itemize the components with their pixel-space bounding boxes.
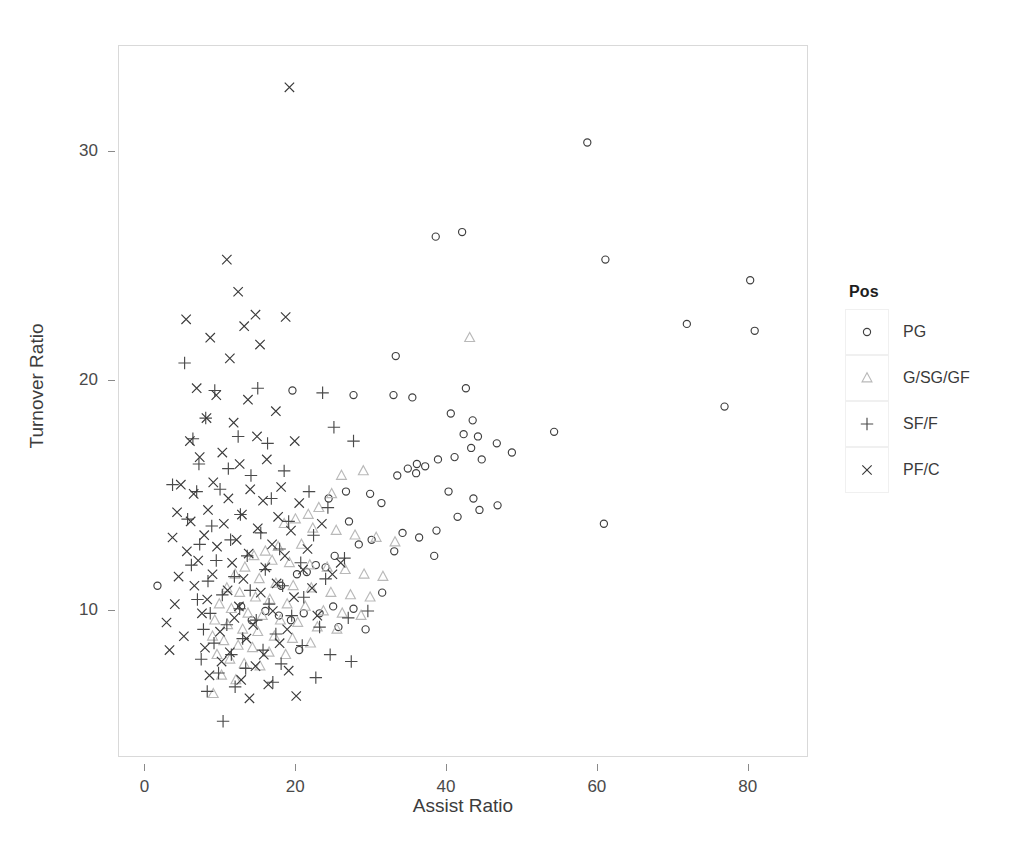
legend-label: PG (903, 323, 926, 341)
x-tick-mark (144, 764, 145, 771)
legend-item-PF-C[interactable]: PF/C (845, 447, 1015, 493)
x-tick-mark (446, 764, 447, 771)
legend: Pos PGG/SG/GFSF/FPF/C (845, 283, 1015, 493)
y-tick-label: 10 (56, 600, 98, 620)
y-tick-mark (108, 380, 115, 381)
legend-label: G/SG/GF (903, 369, 970, 387)
legend-item-G-SG-GF[interactable]: G/SG/GF (845, 355, 1015, 401)
legend-title: Pos (849, 283, 1015, 301)
x-tick-label: 0 (140, 777, 149, 797)
y-tick-label: 30 (56, 141, 98, 161)
legend-item-SF-F[interactable]: SF/F (845, 401, 1015, 447)
circle-marker-icon (845, 309, 889, 355)
x-tick-label: 40 (437, 777, 456, 797)
triangle-marker-icon (845, 355, 889, 401)
x-axis-title: Assist Ratio (0, 795, 926, 817)
y-tick-mark (108, 610, 115, 611)
data-points-layer (119, 46, 808, 757)
plus-marker-icon (845, 401, 889, 447)
x-tick-mark (748, 764, 749, 771)
cross-marker-icon (845, 447, 889, 493)
x-tick-mark (597, 764, 598, 771)
plot-area (118, 45, 808, 757)
x-tick-label: 80 (738, 777, 757, 797)
legend-label: SF/F (903, 415, 938, 433)
legend-items: PGG/SG/GFSF/FPF/C (845, 309, 1015, 493)
y-tick-label: 20 (56, 370, 98, 390)
x-tick-mark (295, 764, 296, 771)
x-tick-label: 20 (286, 777, 305, 797)
legend-item-PG[interactable]: PG (845, 309, 1015, 355)
scatter-plot-figure: 020406080102030 Assist Ratio Turnover Ra… (0, 0, 1028, 865)
y-axis-title: Turnover Ratio (26, 186, 48, 586)
legend-label: PF/C (903, 461, 939, 479)
series-G-SG-GF (208, 332, 475, 697)
y-tick-mark (108, 151, 115, 152)
x-tick-label: 60 (587, 777, 606, 797)
